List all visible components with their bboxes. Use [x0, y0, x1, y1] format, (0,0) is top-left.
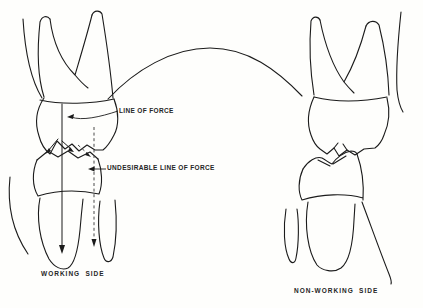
- diagram-canvas: [0, 0, 423, 308]
- lower-tooth-nonworking-side-drawing: [284, 151, 391, 284]
- upper-molar-working-mesial-root: [38, 17, 50, 97]
- upper-molar-working-root-furcation: [50, 15, 92, 88]
- lower-molar-working-crown-outline: [33, 159, 101, 196]
- lower-tooth-nonworking-distal-outline: [362, 202, 391, 284]
- line-of-force-leader: [71, 111, 118, 119]
- upper-molar-nonworking-crown-outline: [309, 97, 389, 156]
- lower-tooth-nonworking-mesial-root: [284, 209, 298, 263]
- dental-arch-curve: [108, 48, 302, 99]
- undesirable-leader-arrowhead: [88, 167, 95, 172]
- line-of-force-arrow: [59, 104, 65, 254]
- lower-molar-working-distal-root: [99, 200, 116, 262]
- upper-molar-working-crown-outline: [37, 98, 118, 154]
- non-working-side-label: NON-WORKING SIDE: [294, 287, 378, 294]
- upper-molar-working-cervical-line: [40, 99, 114, 103]
- undesirable-line-of-force-label: UNDESIRABLE LINE OF FORCE: [107, 164, 215, 171]
- working-side-label: WORKING SIDE: [41, 270, 105, 277]
- lower-molar-working-buccal-outline: [9, 177, 28, 254]
- upper-molar-nonworking-root-furcation: [320, 20, 366, 93]
- lower-tooth-nonworking-main-root: [306, 202, 355, 271]
- upper-molar-nonworking-buccal-outline: [397, 12, 403, 112]
- dental-occlusion-figure: LINE OF FORCE UNDESIRABLE LINE OF FORCE …: [0, 0, 423, 308]
- occlusal-incline-force-arrows: [45, 139, 91, 157]
- upper-molar-nonworking-distal-root: [366, 21, 389, 95]
- upper-molar-nonworking-side-drawing: [309, 12, 403, 156]
- upper-molar-nonworking-cervical-line: [314, 97, 387, 101]
- upper-molar-nonworking-cusp-fissure: [334, 143, 347, 150]
- line-of-force-label: LINE OF FORCE: [119, 107, 174, 114]
- line-of-force-leader-arrowhead: [67, 114, 74, 119]
- upper-molar-nonworking-mesial-root: [310, 17, 320, 95]
- upper-molar-working-side-drawing: [23, 11, 118, 154]
- incline-arrow-dashed-shaft: [78, 145, 88, 154]
- lower-molar-working-mesial-root: [38, 198, 83, 269]
- lower-tooth-nonworking-crown-outline: [299, 154, 363, 200]
- upper-molar-working-distal-root: [92, 11, 113, 98]
- undesirable-line-of-force-arrowhead: [92, 239, 97, 247]
- undesirable-line-of-force-arrow: [92, 127, 97, 247]
- line-of-force-arrowhead: [59, 245, 65, 254]
